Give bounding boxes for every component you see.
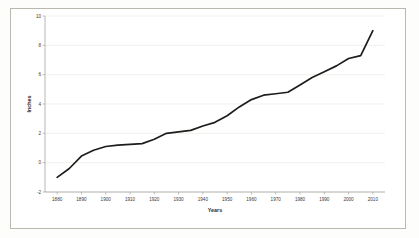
x-axis-tick-labels: 1880189019001910192019301940195019601970… [52,197,378,202]
y-tick-label: 0 [38,160,41,165]
y-tick-marks [43,16,46,192]
x-tick-label: 1880 [52,197,63,202]
y-tick-label: 10 [36,14,42,19]
x-tick-label: 1980 [295,197,306,202]
y-tick-label: 8 [38,43,41,48]
y-tick-label: 6 [38,72,41,77]
y-tick-label: 4 [38,102,41,107]
x-tick-label: 1960 [246,197,257,202]
x-tick-label: 1950 [222,197,233,202]
x-tick-label: 1970 [271,197,282,202]
x-tick-label: 1920 [149,197,160,202]
line-chart: -20246810 188018901900191019201930194019… [0,0,419,238]
x-tick-label: 2000 [343,197,354,202]
x-tick-label: 1990 [319,197,330,202]
y-axis-tick-labels: -20246810 [36,14,42,195]
x-tick-label: 1940 [198,197,209,202]
x-axis-title: Years [208,207,222,213]
y-axis-title: Inches [26,95,32,112]
chart-figure: -20246810 188018901900191019201930194019… [0,0,419,238]
x-tick-label: 1930 [173,197,184,202]
x-tick-label: 1910 [125,197,136,202]
x-tick-label: 1900 [101,197,112,202]
x-tick-label: 1890 [76,197,87,202]
x-tick-marks [57,192,373,195]
x-tick-label: 2010 [368,197,379,202]
y-tick-label: 2 [38,131,41,136]
y-tick-label: -2 [37,190,42,195]
